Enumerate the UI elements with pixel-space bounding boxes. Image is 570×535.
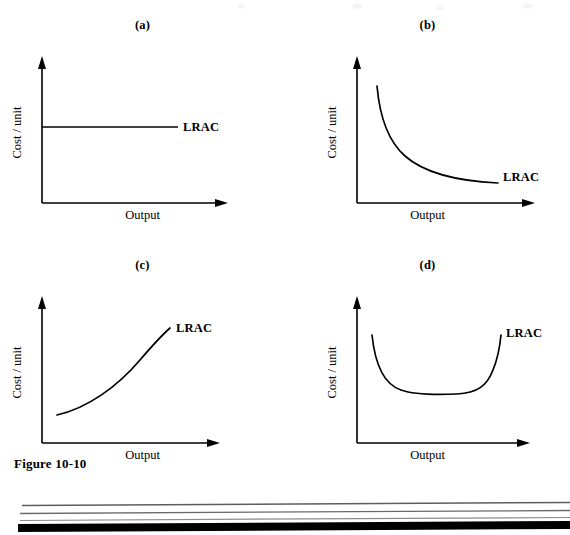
panel-c-plot (0, 240, 285, 480)
footer-rule-thin-bottom (20, 518, 570, 521)
footer-rule-thin-top (22, 503, 570, 506)
x-axis-label: Output (285, 208, 570, 223)
y-axis-label: Cost / unit (10, 106, 25, 158)
scan-speck (352, 3, 362, 9)
panel-d: (d) Cost / unit Output LRAC (285, 240, 570, 480)
scan-speck (238, 4, 245, 9)
scan-speck (523, 3, 532, 9)
x-axis-label: Output (0, 208, 285, 223)
lrac-curve (57, 328, 170, 415)
lrac-label: LRAC (503, 170, 539, 185)
lrac-curve (377, 86, 498, 183)
y-axis (38, 56, 46, 203)
footer-rule-thick-bar (18, 521, 570, 532)
panel-c: (c) Cost / unit Output LRAC (0, 240, 285, 480)
x-axis (357, 439, 530, 447)
panel-b: (b) Cost / unit Output LRAC (285, 0, 570, 240)
x-axis (42, 439, 220, 447)
panel-a: (a) Cost / unit Output LRAC (0, 0, 285, 240)
footer-rules (0, 496, 570, 535)
scan-speck (436, 5, 444, 10)
y-axis-label: Cost / unit (325, 346, 340, 398)
y-axis (38, 296, 46, 443)
lrac-label: LRAC (506, 326, 542, 341)
lrac-label: LRAC (183, 120, 219, 135)
lrac-curve (372, 335, 501, 395)
x-axis-label: Output (285, 448, 570, 463)
x-axis (357, 199, 535, 207)
footer-rule-thin-middle (20, 511, 570, 514)
x-axis (42, 199, 228, 207)
figure-caption: Figure 10-10 (14, 456, 87, 472)
lrac-label: LRAC (176, 321, 212, 336)
panel-a-plot (0, 0, 285, 240)
y-axis-label: Cost / unit (325, 106, 340, 158)
y-axis-label: Cost / unit (10, 346, 25, 398)
y-axis (353, 56, 361, 203)
figure-sheet: (a) Cost / unit Output LRAC (b) (0, 0, 570, 535)
y-axis (353, 296, 361, 443)
